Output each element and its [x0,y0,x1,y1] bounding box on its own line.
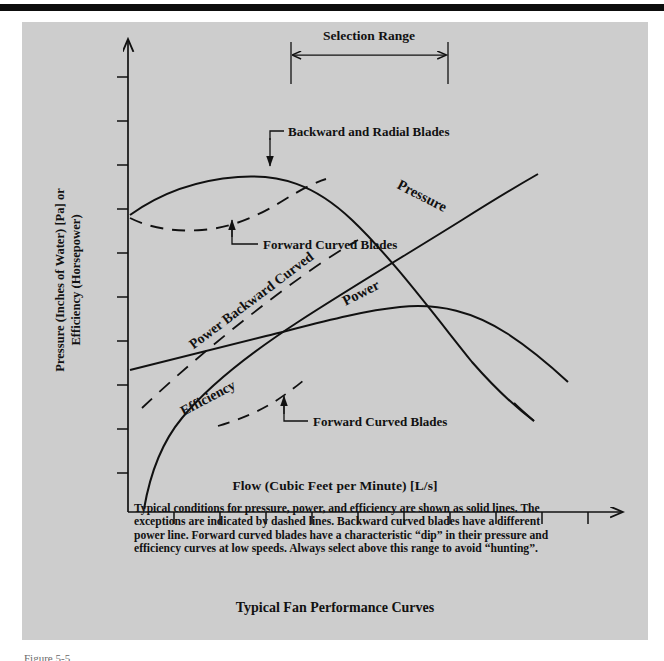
figure-panel: Selection Range [22,22,648,640]
forward-curved-efficiency-leader [284,402,308,421]
pressure-descending-tail [514,403,534,421]
y-axis-label-line2: Efficiency (Horsepower) [69,214,83,345]
forward-curved-pressure-label: Forward Curved Blades [263,237,397,252]
forward-curved-pressure-leader [232,223,258,244]
figure-title: Typical Fan Performance Curves [22,600,648,616]
y-axis-label-line1: Pressure (Inches of Water) [Pa] or [53,188,67,372]
backward-radial-leader [270,131,284,140]
backward-radial-blades-label: Backward and Radial Blades [288,124,449,139]
curve-labels: Pressure Power Efficiency Power Backward… [178,176,450,418]
power-label: Power [340,276,383,308]
power-backward-curved-label: Power Backward Curved [186,249,316,352]
power-backward-curved-dashed [142,240,358,408]
selection-range-label: Selection Range [323,28,415,43]
backward-radial-blades-callout: Backward and Radial Blades [270,124,449,166]
chart-axes: Pressure (Inches of Water) [Pa] or Effic… [53,40,622,524]
figure-caption-partial: Figure 5-5 [24,652,224,661]
forward-curved-efficiency-callout: Forward Curved Blades [284,396,447,429]
selection-range-annotation: Selection Range [291,28,448,84]
y-axis-ticks [117,77,128,473]
pressure-label: Pressure [395,176,450,215]
figure-note-text: Typical conditions for pressure, power, … [134,502,554,555]
efficiency-label: Efficiency [178,377,238,418]
pressure-dashed-forward-curved [130,179,326,231]
x-axis-label: Flow (Cubic Feet per Minute) [L/s] [22,478,648,494]
forward-curved-efficiency-label: Forward Curved Blades [313,414,447,429]
top-rule [0,4,664,11]
forward-curved-pressure-callout: Forward Curved Blades [232,220,397,252]
